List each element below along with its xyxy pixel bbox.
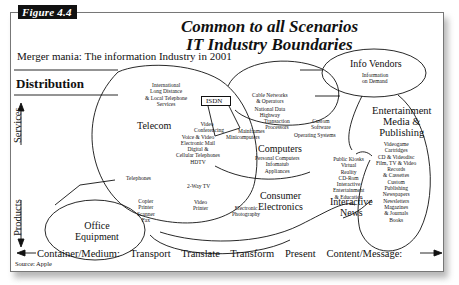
axis-step: Present	[285, 248, 316, 259]
entertainment-list: Videogame Cartridges CD & Videodisc Film…	[376, 141, 416, 223]
axis-step: Translate	[181, 248, 220, 259]
axis-step: Transport	[130, 248, 170, 259]
axis-end-label: Content/Message:	[326, 248, 402, 259]
distribution-label: Distribution	[16, 76, 84, 92]
computers-label: Computers	[258, 143, 302, 154]
axis-start-label: Container/Medium:	[37, 248, 120, 259]
two-way-tv-label: 2-Way TV	[187, 183, 210, 189]
title-line-1: Common to all Scenarios	[40, 18, 459, 36]
source-note: Source: Apple	[15, 260, 52, 267]
services-axis-label: Services	[12, 107, 23, 143]
computers-below-list: Personal Computers Infomatub Appliances	[255, 155, 299, 174]
interactive-news-label: Interactive News	[330, 196, 373, 218]
cable-networks-list: Cable Networks & Operators National Data…	[250, 92, 290, 131]
subtitle: Merger mania: The information Industry i…	[17, 50, 232, 62]
telephones-label: Telephones	[126, 175, 151, 181]
electronic-photography-label: Electronic Photography	[232, 205, 260, 218]
interactive-list: Public Kiosks Virtual Reality CD-Rom Int…	[333, 156, 364, 200]
entertainment-label: Entertainment Media & Publishing	[372, 105, 431, 138]
computers-right-list: Custom Software Operating Systems	[306, 118, 336, 138]
computers-left-list: Mainframes Minicomputers	[226, 128, 265, 141]
horizontal-axis: Container/Medium: Transport Translate Tr…	[37, 248, 408, 259]
consumer-electronics-label: Consumer Electronics	[258, 190, 303, 212]
office-items-list: Copier Printer Scanner Fax	[137, 198, 155, 223]
telecom-services-list: International Long Distance & Local Tele…	[145, 82, 187, 107]
telecom-center-list: Video Conferencing Voice & Video Electro…	[172, 121, 224, 165]
info-vendors-label: Info Vendors	[350, 58, 402, 69]
telecom-label: Telecom	[137, 120, 171, 131]
info-vendors-list: Information on Demand	[362, 72, 388, 85]
products-axis-label: Products	[12, 199, 23, 236]
video-printer-label: Video Printer	[193, 199, 208, 212]
figure-tag: Figure 4.4	[18, 5, 77, 19]
axis-step: Transform	[230, 248, 274, 259]
office-equipment-label: Office Equipment	[75, 220, 119, 242]
isdn-box: ISDN	[201, 96, 231, 106]
